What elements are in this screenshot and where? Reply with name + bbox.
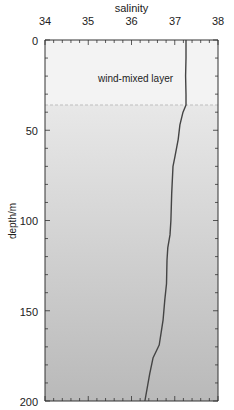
wind-mixed-layer-label: wind-mixed layer (98, 73, 173, 84)
deep-layer-background (45, 105, 218, 401)
plot-area (0, 0, 234, 410)
